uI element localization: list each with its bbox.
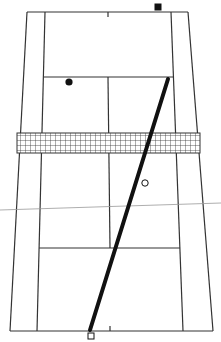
- ball-bounce-marker: [65, 78, 72, 85]
- target-point-marker: [142, 180, 148, 186]
- shot-trajectory: [90, 79, 168, 330]
- shot-path: [90, 79, 168, 330]
- horizon-line: [0, 203, 221, 210]
- horizon-line-stroke: [0, 203, 221, 210]
- near-player-marker: [88, 333, 94, 339]
- center-service-line: [108, 77, 110, 248]
- net-mesh: [17, 133, 200, 153]
- markers: [65, 4, 161, 340]
- tennis-court-diagram: [0, 0, 221, 342]
- far-player-marker: [155, 4, 162, 11]
- right-doubles-sideline: [188, 12, 213, 331]
- court-canvas: [0, 0, 221, 342]
- court-lines: [10, 12, 213, 331]
- net: [17, 133, 200, 153]
- right-singles-sideline: [171, 12, 183, 331]
- left-doubles-sideline: [10, 12, 27, 331]
- left-singles-sideline: [37, 12, 45, 331]
